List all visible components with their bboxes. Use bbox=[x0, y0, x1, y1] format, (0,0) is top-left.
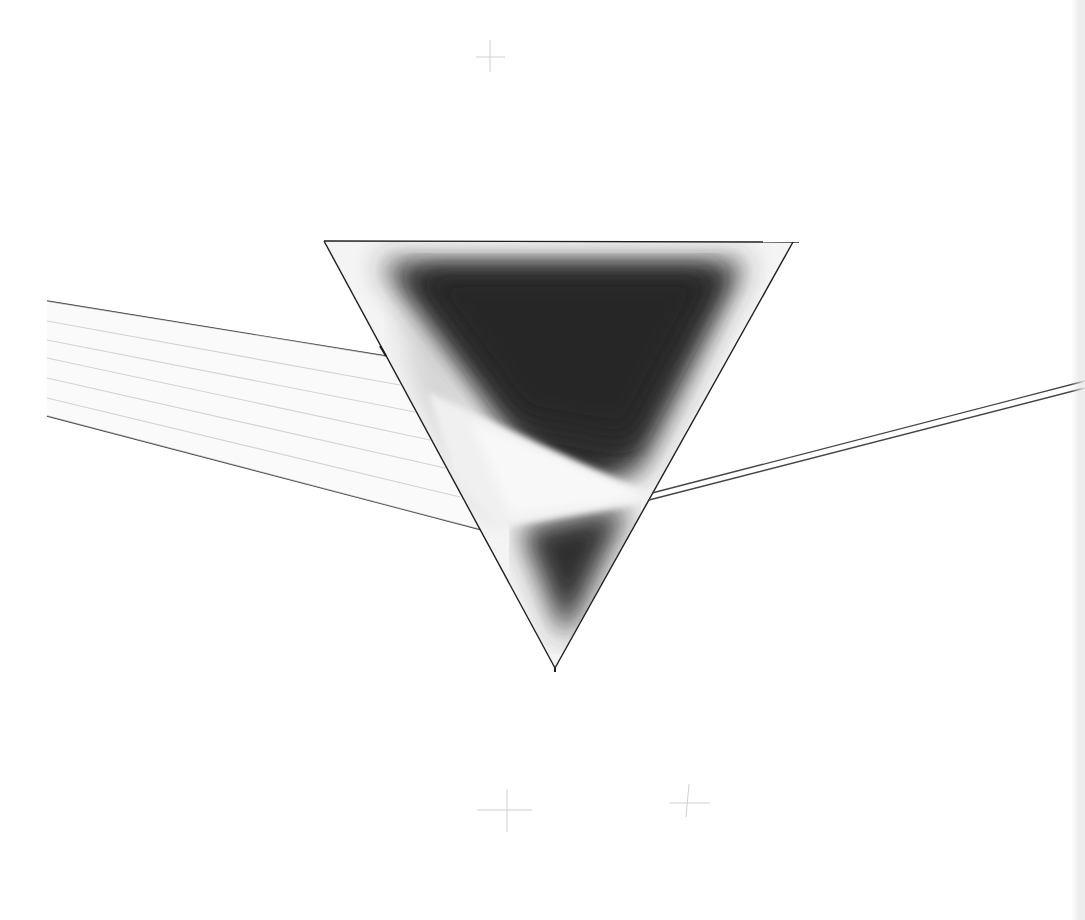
prism-illustration bbox=[0, 0, 1085, 920]
page-edge-shadow bbox=[1071, 0, 1085, 920]
exit-beam bbox=[649, 381, 1085, 500]
artwork-canvas bbox=[0, 0, 1085, 920]
